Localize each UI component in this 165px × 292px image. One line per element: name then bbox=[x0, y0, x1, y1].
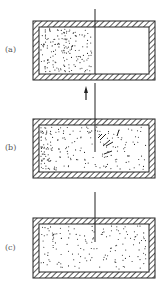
panel-a: (a) bbox=[5, 9, 155, 80]
panel-b: (b) bbox=[5, 100, 155, 178]
container-interior bbox=[39, 224, 149, 272]
panel-label-c: (c) bbox=[5, 243, 16, 252]
panel-label-b: (b) bbox=[5, 143, 16, 152]
free-expansion-diagram: (a) (b) (c) bbox=[0, 0, 165, 292]
panel-c: (c) bbox=[5, 192, 155, 278]
lift-arrow-icon bbox=[84, 86, 88, 100]
panel-label-a: (a) bbox=[5, 45, 16, 54]
